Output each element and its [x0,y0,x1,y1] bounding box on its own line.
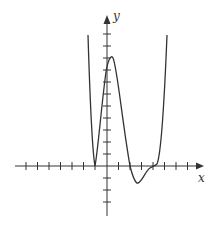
x-axis-arrow-icon [196,163,204,170]
function-graph: x y [0,0,217,233]
function-curve [88,35,167,183]
x-axis-label: x [198,171,205,185]
y-axis-label: y [112,9,120,23]
y-axis-arrow-icon [104,15,111,24]
